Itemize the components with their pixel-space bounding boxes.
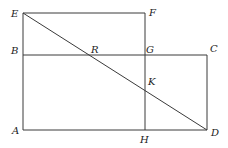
label-point-e: E bbox=[10, 8, 19, 19]
label-point-k: K bbox=[147, 76, 156, 87]
label-point-f: F bbox=[148, 7, 157, 18]
label-point-a: A bbox=[11, 125, 19, 136]
label-point-r: R bbox=[90, 44, 99, 55]
label-point-h: H bbox=[139, 134, 149, 145]
segment-ed-diagonal bbox=[23, 13, 207, 130]
label-point-b: B bbox=[10, 45, 18, 56]
label-point-d: D bbox=[210, 127, 219, 138]
label-point-g: G bbox=[146, 44, 154, 55]
geometry-diagram: E F B R G C K A H D bbox=[0, 0, 228, 148]
label-point-c: C bbox=[210, 43, 218, 54]
